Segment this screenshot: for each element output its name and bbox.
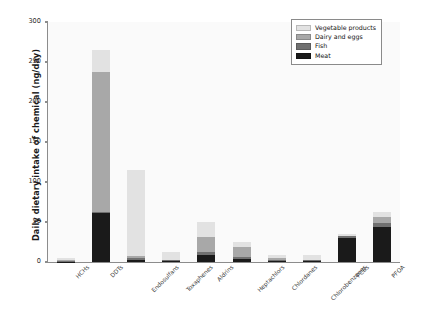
y-tick-label: 50 (33, 217, 41, 225)
x-axis-line (47, 262, 400, 263)
legend-item[interactable]: Meat (296, 51, 376, 60)
bar-segment[interactable] (127, 260, 145, 262)
x-axis-label: Chlordanes (291, 264, 319, 292)
bar-group[interactable] (338, 234, 356, 262)
bar-segment[interactable] (338, 238, 356, 262)
bar-segment[interactable] (233, 247, 251, 257)
x-axis-label: Aldrins (216, 264, 235, 283)
y-tick-label: 150 (28, 137, 41, 145)
bar-segment[interactable] (197, 222, 215, 237)
legend-swatch (296, 34, 311, 40)
bar-segment[interactable] (92, 213, 110, 262)
legend-swatch (296, 25, 311, 31)
legend-item[interactable]: Vegetable products (296, 23, 376, 32)
legend: Vegetable productsDairy and eggsFishMeat (291, 19, 382, 65)
legend-label: Meat (315, 53, 331, 59)
bar-segment[interactable] (162, 261, 180, 262)
legend-item[interactable]: Fish (296, 42, 376, 51)
bar-segment[interactable] (233, 259, 251, 262)
bar-segment[interactable] (162, 252, 180, 260)
bar-segment[interactable] (127, 170, 145, 256)
bar-group[interactable] (197, 222, 215, 262)
bar-group[interactable] (92, 50, 110, 262)
bar-segment[interactable] (197, 255, 215, 262)
stacked-bar-chart: Daily dietary intake of chemical (ng/day… (0, 0, 422, 320)
x-axis-label: Endosulfans (150, 264, 180, 294)
bar-segment[interactable] (303, 261, 321, 262)
legend-swatch (296, 43, 311, 49)
y-tick-label: 100 (28, 177, 41, 185)
bar-group[interactable] (57, 258, 75, 262)
x-axis-label: HCHs (74, 264, 90, 280)
legend-swatch (296, 53, 311, 59)
bar-segment[interactable] (268, 261, 286, 262)
bar-segment[interactable] (197, 237, 215, 252)
x-axis-labels: HCHsDDTsEndosulfansToxaphenesAldrinsHept… (48, 264, 400, 320)
bar-group[interactable] (233, 242, 251, 262)
y-tick-label: 0 (37, 257, 41, 265)
legend-label: Fish (315, 43, 327, 49)
bar-group[interactable] (373, 212, 391, 262)
bar-segment[interactable] (92, 72, 110, 212)
y-tick-label: 250 (28, 57, 41, 65)
y-tick-label: 300 (28, 17, 41, 25)
bar-group[interactable] (127, 170, 145, 262)
bar-group[interactable] (162, 252, 180, 262)
x-axis-label: PCBs (356, 264, 371, 279)
y-tick-label: 200 (28, 97, 41, 105)
legend-label: Dairy and eggs (315, 34, 363, 40)
legend-item[interactable]: Dairy and eggs (296, 32, 376, 41)
bar-segment[interactable] (373, 227, 391, 262)
bar-segment[interactable] (92, 50, 110, 72)
bar-group[interactable] (303, 255, 321, 262)
legend-label: Vegetable products (315, 25, 376, 31)
x-axis-label: Toxaphenes (185, 264, 214, 293)
bar-group[interactable] (268, 255, 286, 262)
x-axis-label: PFOA (391, 264, 406, 279)
x-axis-label: Heptachlors (256, 264, 285, 293)
x-axis-label: DDTs (109, 264, 124, 279)
